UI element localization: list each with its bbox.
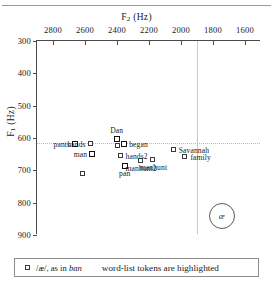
data-point-marker [118,153,123,158]
legend-vowel-example: ban [69,263,82,273]
x-tick [245,41,246,45]
x-axis-title: F2 (Hz) [0,12,273,23]
data-point-label-Dan: Dan [110,126,123,135]
data-point-label-began: began [129,139,148,148]
y-tick-label-500: 500 [1,101,31,111]
vowel-formant-figure: F2 (Hz) F1 (Hz) 280026002400220020001800… [0,0,273,285]
y-tick-label-800: 800 [1,198,31,208]
y-tick [33,73,37,74]
x-tick [85,41,86,45]
data-point-label-family: family [190,152,210,161]
y-tick-label-600: 600 [1,133,31,143]
y-axis-title: F1 (Hz) [6,87,17,157]
data-point-label-manhunt: manhunt [140,163,167,172]
y-tick-label-300: 300 [1,36,31,46]
open-square-marker-icon [25,265,30,270]
y-tick-label-900: 900 [1,230,31,240]
f2-reference-line [197,41,198,234]
x-tick-label-1600: 1600 [225,25,265,35]
data-point-label-hands2: hands2 [126,151,148,160]
x-tick [213,41,214,45]
y-tick [33,138,37,139]
data-point-marker [115,143,120,148]
x-tick [181,41,182,45]
data-point-marker [89,151,95,157]
y-tick [33,170,37,171]
y-tick [33,203,37,204]
x-tick [117,41,118,45]
data-point-marker [80,171,85,176]
data-point-marker [182,154,187,159]
plot-area: 2800260024002200200018001600 30040050060… [36,40,260,234]
y-tick-label-700: 700 [1,165,31,175]
legend: /æ/, as in ban word-list tokens are high… [14,258,259,277]
legend-vowel-label: /æ/, as in [36,263,69,273]
vowel-category-annotation: æ [209,203,235,229]
data-point-marker [88,141,93,146]
data-point-marker [171,147,176,152]
x-axis-title-unit: (Hz) [131,12,152,22]
y-axis-title-subscript: 1 [9,127,17,131]
top-divider [2,5,271,6]
y-tick [33,41,37,42]
y-tick [33,235,37,236]
data-point-marker [150,157,155,162]
data-point-marker [121,141,127,147]
data-point-label-hands: hands [67,139,85,148]
data-point-marker [114,136,120,142]
y-tick-label-400: 400 [1,68,31,78]
y-tick [33,106,37,107]
x-tick [53,41,54,45]
data-point-label-man: man [74,149,87,158]
legend-vowel-text: /æ/, as in ban [36,263,82,273]
x-tick [149,41,150,45]
legend-note: word-list tokens are highlighted [102,263,219,273]
